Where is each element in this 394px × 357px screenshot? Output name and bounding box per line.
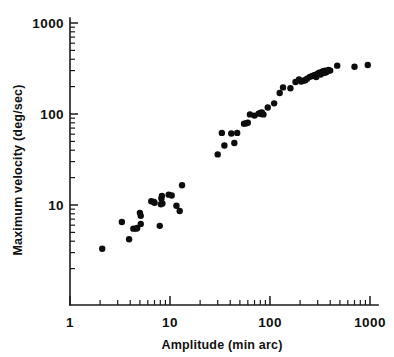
data-point — [334, 62, 340, 68]
y-tick-label: 100 — [40, 107, 64, 122]
data-point — [157, 223, 163, 229]
data-point — [126, 236, 132, 242]
data-point — [260, 111, 266, 117]
data-point — [215, 151, 221, 157]
data-point — [138, 221, 144, 227]
data-point — [365, 62, 371, 68]
axis-frame — [70, 18, 378, 305]
plot-canvas: 101001000 1101001000 Maximum velocity (d… — [0, 0, 394, 357]
y-tick-label: 10 — [48, 198, 64, 213]
data-point — [271, 100, 277, 106]
x-axis-title: Amplitude (min arc) — [161, 338, 282, 352]
data-point — [176, 208, 182, 214]
x-axis-ticks — [70, 296, 370, 305]
y-axis-tick-labels: 101001000 — [32, 16, 64, 213]
data-point — [169, 192, 175, 198]
data-point — [151, 199, 157, 205]
data-point — [159, 200, 165, 206]
data-point — [280, 84, 286, 90]
data-point — [138, 213, 144, 219]
x-tick-label: 1000 — [354, 315, 386, 330]
x-tick-label: 100 — [258, 315, 282, 330]
y-tick-label: 1000 — [32, 16, 64, 31]
data-point — [351, 64, 357, 70]
scatter-plot-figure: 101001000 1101001000 Maximum velocity (d… — [0, 0, 394, 357]
data-point — [228, 130, 234, 136]
data-points-layer — [99, 62, 371, 252]
data-point — [327, 67, 333, 73]
data-point — [245, 120, 251, 126]
x-tick-label: 10 — [162, 315, 178, 330]
data-point — [179, 182, 185, 188]
data-point — [287, 85, 293, 91]
data-point — [276, 90, 282, 96]
data-point — [221, 142, 227, 148]
y-axis-ticks — [70, 23, 78, 269]
data-point — [119, 219, 125, 225]
data-point — [159, 193, 165, 199]
y-axis-title: Maximum velocity (deg/sec) — [11, 84, 25, 255]
data-point — [234, 130, 240, 136]
x-axis-tick-labels: 1101001000 — [66, 315, 386, 330]
x-tick-label: 1 — [66, 315, 74, 330]
data-point — [99, 246, 105, 252]
data-point — [265, 104, 271, 110]
data-point — [219, 130, 225, 136]
data-point — [231, 140, 237, 146]
